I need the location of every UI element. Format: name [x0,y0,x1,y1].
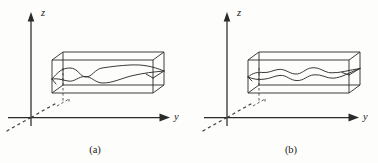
origin-to-box-dashed-line [31,103,57,118]
box-connector-bottom-left [248,85,259,93]
box-connector-top-right [349,52,360,60]
z-axis-b [224,12,231,126]
x-axis-dashed-line [201,118,227,133]
box-connector-top-left [248,52,259,60]
y-axis-a [8,114,170,122]
z-axis-label: z [40,7,45,18]
y-axis-label: y [173,111,179,122]
box-connector-bottom-right [349,85,360,93]
wave-curve-lower [248,69,360,81]
wave-curve-lower [52,71,164,83]
x-axis-dashed-line [5,118,31,133]
z-axis-arrowhead [28,12,35,22]
panel-caption-a: (a) [89,144,101,156]
z-axis-a [28,12,35,126]
box-connector-top-left [52,52,63,60]
panel-caption-b: (b) [285,144,298,156]
z-axis-label: z [236,7,241,18]
y-axis-label: y [362,111,368,122]
wave-curve-upper [52,65,164,79]
wave-end-connector-right-inner [146,74,153,78]
box-connector-bottom-left [52,85,63,93]
z-axis-arrowhead [224,12,231,22]
box-connector-bottom-right [153,85,164,93]
wave-end-connector-left [52,79,56,84]
y-axis-arrowhead [349,114,360,122]
box-front-face [63,52,164,85]
figure-panel-a: z y (a) [0,0,189,163]
y-axis-arrowhead [160,114,171,122]
figure-panel-b: z y (b) [189,0,378,163]
origin-to-box-dashed-line [227,103,253,118]
box-connector-top-right [153,52,164,60]
figure-root: z y (a) [0,0,378,163]
box-back-face [248,60,349,93]
